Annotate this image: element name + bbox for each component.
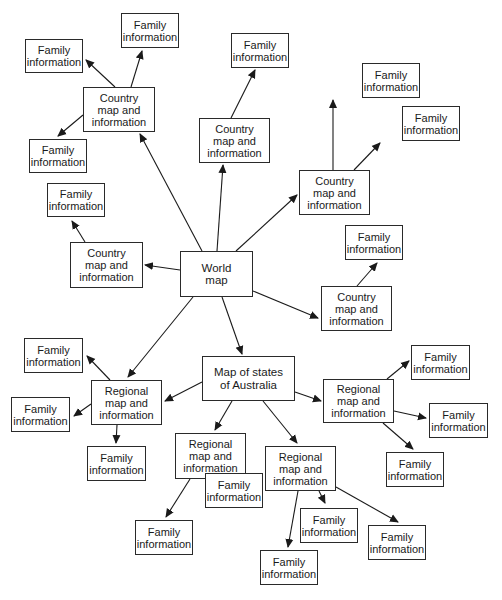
node-label: Family information <box>302 514 356 538</box>
family-information-node: Family information <box>11 397 70 432</box>
node-label: Family information <box>388 458 442 482</box>
node-label: Family information <box>347 231 401 255</box>
node-label: Map of states of Australia <box>214 366 283 391</box>
country-map-node: Country map and information <box>299 170 370 215</box>
arrow-regional_r-to-fi_17 <box>387 361 409 379</box>
node-label: Family information <box>404 112 458 136</box>
node-label: Family information <box>31 144 85 168</box>
arrow-regional_c2-to-fi_14 <box>319 491 325 503</box>
family-information-node: Family information <box>24 338 83 373</box>
family-information-node: Family information <box>386 452 444 487</box>
country-map-node: Country map and information <box>321 286 392 331</box>
arrow-world-to-country_tl <box>140 134 202 251</box>
arrow-australia-to-regional_c2 <box>263 401 297 443</box>
family-information-node: Family information <box>411 345 470 380</box>
arrow-world-to-country_l <box>145 265 180 270</box>
arrow-world-to-country_r <box>236 195 297 251</box>
arrow-australia-to-regional_c1 <box>215 401 232 430</box>
node-label: Family information <box>370 531 424 555</box>
arrow-regional_c2-to-fi_16 <box>288 491 298 547</box>
node-label: Family information <box>137 526 191 550</box>
arrow-regional_r-to-fi_19 <box>383 423 413 449</box>
arrow-country_l-to-fi_7 <box>72 221 85 242</box>
arrow-country_tl-to-fi_1 <box>86 60 115 87</box>
australia-states-map-node: Map of states of Australia <box>202 356 295 401</box>
country-map-node: Country map and information <box>83 87 155 132</box>
connector-arrows <box>0 0 502 600</box>
node-label: Family information <box>123 19 177 43</box>
country-map-node: Country map and information <box>199 118 270 163</box>
family-information-node: Family information <box>29 139 87 173</box>
family-information-node: Family information <box>135 520 193 555</box>
node-label: Family information <box>27 44 81 68</box>
node-label: Regional map and information <box>99 385 153 421</box>
node-label: Family information <box>13 403 67 427</box>
family-information-node: Family information <box>368 525 426 560</box>
arrow-world-to-australia <box>222 297 242 354</box>
node-label: Regional map and information <box>273 451 327 487</box>
family-information-node: Family information <box>345 225 403 260</box>
arrow-country_rl-to-fi_8 <box>357 263 377 286</box>
arrow-world-to-regional_l <box>128 297 193 377</box>
family-information-node: Family information <box>231 33 289 68</box>
family-information-node: Family information <box>87 446 146 481</box>
node-label: Family information <box>89 452 143 476</box>
node-label: Family information <box>26 344 80 368</box>
arrow-country_r-to-fi_6 <box>354 143 380 170</box>
world-map-node: World map <box>180 251 253 297</box>
arrow-australia-to-regional_r <box>295 392 321 401</box>
node-label: World map <box>202 262 232 287</box>
node-label: Family information <box>413 351 467 375</box>
family-information-node: Family information <box>300 508 358 543</box>
arrow-regional_r-to-fi_18 <box>394 411 426 418</box>
node-label: Family information <box>431 409 485 433</box>
node-label: Country map and information <box>329 291 383 327</box>
arrow-world-to-country_c <box>217 165 223 251</box>
regional-map-node: Regional map and information <box>323 379 394 423</box>
family-information-node: Family information <box>25 39 83 73</box>
node-label: Country map and information <box>207 123 261 159</box>
arrow-country_c-to-fi_4 <box>231 70 255 118</box>
family-information-node: Family information <box>429 403 488 438</box>
node-label: Family information <box>207 479 261 503</box>
family-information-hierarchy-diagram: World mapMap of states of AustraliaCount… <box>0 0 502 600</box>
regional-map-node: Regional map and information <box>265 446 336 491</box>
node-label: Family information <box>262 556 316 580</box>
arrow-regional_l-to-fi_11 <box>116 425 117 443</box>
arrow-country_tl-to-fi_3 <box>58 115 83 136</box>
family-information-node: Family information <box>47 183 105 217</box>
arrow-world-to-country_rl <box>253 291 318 318</box>
country-map-node: Country map and information <box>70 242 143 288</box>
node-label: Family information <box>233 39 287 63</box>
node-label: Country map and information <box>307 175 361 211</box>
node-label: Regional map and information <box>331 383 385 419</box>
family-information-node: Family information <box>402 106 460 141</box>
node-label: Country map and information <box>79 247 133 283</box>
regional-map-node: Regional map and information <box>91 380 162 425</box>
arrow-regional_l-to-fi_9 <box>87 356 110 380</box>
arrow-regional_c1-to-fi_13 <box>166 479 190 517</box>
node-label: Family information <box>49 188 103 212</box>
node-label: Regional map and information <box>183 438 237 474</box>
arrow-australia-to-regional_l <box>165 382 202 401</box>
family-information-node: Family information <box>362 63 420 98</box>
arrow-country_tl-to-fi_2 <box>131 51 142 87</box>
family-information-node: Family information <box>260 550 318 585</box>
arrow-regional_l-to-fi_10 <box>74 404 91 416</box>
node-label: Country map and information <box>92 92 146 128</box>
node-label: Family information <box>364 69 418 93</box>
family-information-node: Family information <box>205 473 263 508</box>
family-information-node: Family information <box>121 13 179 48</box>
